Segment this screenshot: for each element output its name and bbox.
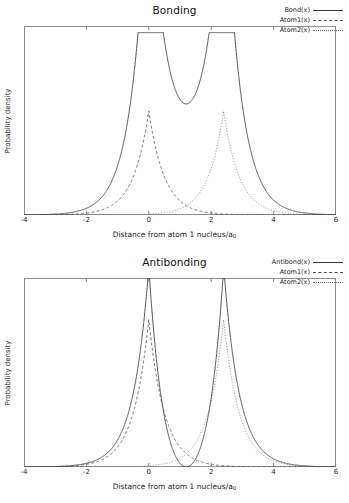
legend-label: Atom1(x) (280, 268, 310, 277)
curve-antibondx (24, 278, 336, 467)
legend-item: Atom2(x) (272, 278, 343, 287)
curve-atom1x (24, 320, 336, 467)
legend-key-dashed-icon (313, 20, 343, 22)
x-axis-title-subscript: 0 (233, 485, 237, 491)
curve-bondx (24, 33, 336, 215)
x-axis-tick-labels-bonding: -4-20246 (24, 216, 336, 228)
legend-bonding: Bond(x) Atom1(x) Atom2(x) (278, 4, 346, 37)
legend-label: Atom2(x) (280, 26, 310, 35)
legend-key-dotted-icon (313, 30, 343, 32)
x-tick-label: 0 (147, 216, 151, 224)
legend-key-dashed-icon (313, 272, 343, 274)
legend-item: Atom2(x) (280, 26, 343, 35)
x-tick-label: -4 (21, 216, 28, 224)
y-axis-label-text: Probability density (4, 340, 12, 405)
plot-area-bonding (24, 26, 336, 215)
y-axis-label-text: Probability density (4, 88, 12, 153)
curve-group-bonding (24, 26, 336, 215)
x-axis-tick-labels-antibonding: -4-20246 (24, 468, 336, 480)
x-tick-label: -2 (83, 468, 90, 476)
x-tick-label: 2 (209, 216, 213, 224)
x-tick-label: 2 (209, 468, 213, 476)
legend-item: Atom1(x) (272, 268, 343, 277)
legend-item: Atom1(x) (280, 16, 343, 25)
legend-label: Bond(x) (284, 6, 310, 15)
curve-group-antibonding (24, 278, 336, 467)
legend-antibonding: Antibond(x) Atom1(x) Atom2(x) (270, 256, 346, 289)
x-tick-label: 4 (271, 468, 275, 476)
y-axis-label-antibonding: Probability density (2, 278, 14, 467)
x-axis-title-subscript: 0 (233, 233, 237, 239)
legend-key-solid-icon (313, 10, 343, 12)
x-axis-title-antibonding: Distance from atom 1 nucleus/a0 (0, 482, 349, 491)
curve-atom2x (24, 320, 336, 467)
x-tick-label: 4 (271, 216, 275, 224)
x-axis-title-text: Distance from atom 1 nucleus/a (113, 482, 233, 491)
legend-item: Antibond(x) (272, 258, 343, 267)
x-tick-label: -2 (83, 216, 90, 224)
figure-canvas: Bonding Probability density -4-20246 Dis… (0, 0, 349, 503)
x-axis-title-bonding: Distance from atom 1 nucleus/a0 (0, 230, 349, 239)
x-tick-label: 6 (334, 468, 338, 476)
legend-key-solid-icon (313, 262, 343, 264)
x-tick-label: 6 (334, 216, 338, 224)
plot-panel-antibonding: Antibonding Probability density -4-20246… (0, 252, 349, 499)
legend-label: Atom1(x) (280, 16, 310, 25)
legend-item: Bond(x) (280, 6, 343, 15)
plot-area-antibonding (24, 278, 336, 467)
x-axis-title-text: Distance from atom 1 nucleus/a (113, 230, 233, 239)
curve-atom2x (24, 111, 336, 215)
curve-atom1x (24, 111, 336, 215)
legend-key-dotted-icon (313, 282, 343, 284)
x-tick-label: -4 (21, 468, 28, 476)
legend-label: Atom2(x) (280, 278, 310, 287)
y-axis-label-bonding: Probability density (2, 26, 14, 215)
legend-label: Antibond(x) (272, 258, 310, 267)
plot-panel-bonding: Bonding Probability density -4-20246 Dis… (0, 0, 349, 247)
x-tick-label: 0 (147, 468, 151, 476)
